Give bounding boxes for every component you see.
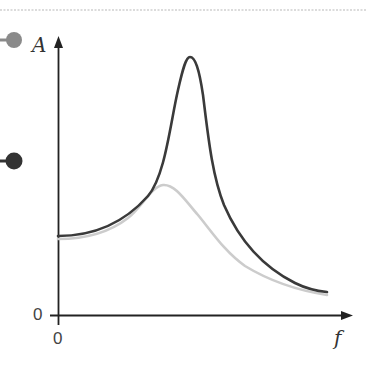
y-axis-label: A bbox=[32, 33, 46, 57]
gray-handle[interactable] bbox=[0, 32, 22, 48]
y-axis bbox=[54, 36, 63, 325]
x-axis-arrow-icon bbox=[341, 311, 353, 320]
x-origin-label: 0 bbox=[53, 329, 62, 349]
resonance-plot bbox=[0, 0, 367, 366]
x-axis-label: f bbox=[334, 326, 341, 350]
low-damping-curve bbox=[58, 57, 327, 292]
y-origin-label: 0 bbox=[33, 305, 42, 325]
x-axis bbox=[50, 311, 353, 320]
dark-handle[interactable] bbox=[0, 153, 23, 170]
y-axis-arrow-icon bbox=[54, 36, 63, 48]
